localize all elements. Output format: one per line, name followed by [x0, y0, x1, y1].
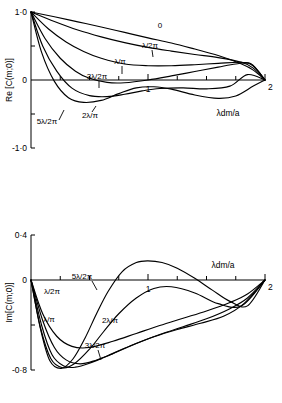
panel-imaginary-part: 00·4-0·812Im[C(m;0)]λdm/a5λ/2πλ/2πλ/π2λ/… [0, 200, 282, 403]
im-curve-label: λ/2π [44, 287, 61, 296]
re-x-axis-title: λdm/a [216, 108, 239, 118]
im-curve-label: λ/π [43, 315, 55, 324]
re-y-tick-label: -1·0 [12, 143, 27, 153]
im-y-tick-label: 0 [22, 275, 27, 285]
im-y-axis-title: Im[C(m;0)] [4, 282, 14, 322]
im-curve-label: 5λ/2π [72, 272, 93, 281]
re-x-tick-label-1: 1 [146, 84, 151, 94]
im-curve-label: 3λ/2π [85, 341, 106, 350]
im-y-tick-label: -0·8 [12, 365, 27, 375]
im-curve-label-leader [92, 281, 97, 290]
re-y-axis-title: Re [C(m;0)] [4, 58, 14, 102]
re-curve-label: 5λ/2π [37, 117, 58, 126]
re-y-tick-label: 1·0 [15, 7, 28, 17]
imaginary-part-chart: 00·4-0·812Im[C(m;0)]λdm/a5λ/2πλ/2πλ/π2λ/… [0, 200, 282, 403]
re-curve-label: 3λ/2π [87, 72, 108, 81]
re-curve-label: 0 [158, 21, 163, 30]
panel-real-part: 01·0-1·012Re [C(m;0)]λdm/a0λ/2πλ/π3λ/2π2… [0, 0, 282, 200]
re-x-tick-label-2: 2 [268, 82, 273, 92]
re-curve-label-leader [59, 110, 64, 120]
im-y-tick-label: 0·4 [15, 230, 28, 240]
im-x-tick-label-1: 1 [146, 284, 151, 294]
re-y-tick-label: 0 [22, 75, 27, 85]
im-curve-label: 2λ/π [102, 316, 119, 325]
re-curve-label: 2λ/π [82, 111, 99, 120]
figure-container: 01·0-1·012Re [C(m;0)]λdm/a0λ/2πλ/π3λ/2π2… [0, 0, 282, 403]
im-x-tick-label-2: 2 [268, 282, 273, 292]
re-curve-label: λ/π [114, 57, 126, 66]
re-curve-label: λ/2π [142, 41, 159, 50]
im-x-axis-title: λdm/a [211, 260, 234, 270]
real-part-chart: 01·0-1·012Re [C(m;0)]λdm/a0λ/2πλ/π3λ/2π2… [0, 0, 282, 200]
re-curve-label-leader [152, 50, 153, 57]
